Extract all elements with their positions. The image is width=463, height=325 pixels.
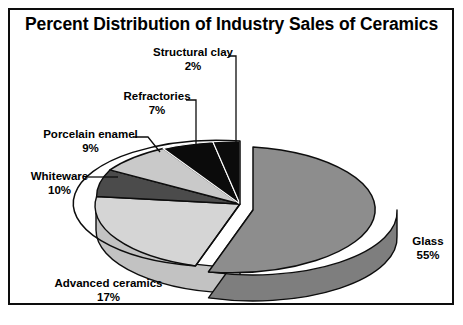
pie-label-porcelain-enamel-name: Porcelain enamel	[33, 128, 148, 142]
chart-figure: Percent Distribution of Industry Sales o…	[0, 0, 463, 325]
pie-label-porcelain-enamel-percent: 9%	[33, 142, 148, 156]
pie-label-glass-name: Glass	[404, 235, 452, 249]
pie-label-structural-clay-name: Structural clay	[141, 46, 245, 60]
pie-label-porcelain-enamel: Porcelain enamel 9%	[33, 128, 148, 155]
pie-label-glass-percent: 55%	[404, 249, 452, 263]
pie-label-glass: Glass 55%	[404, 235, 452, 262]
pie-label-whiteware-percent: 10%	[18, 184, 101, 198]
pie-label-advanced-ceramics: Advanced ceramics 17%	[44, 277, 173, 304]
pie-label-advanced-ceramics-name: Advanced ceramics	[44, 277, 173, 291]
pie-label-refractories-name: Refractories	[113, 90, 201, 104]
pie-label-refractories: Refractories 7%	[113, 90, 201, 117]
pie-label-structural-clay-percent: 2%	[141, 60, 245, 74]
pie-label-whiteware: Whiteware 10%	[18, 170, 101, 197]
pie-label-structural-clay: Structural clay 2%	[141, 46, 245, 73]
pie-label-advanced-ceramics-percent: 17%	[44, 291, 173, 305]
pie-label-refractories-percent: 7%	[113, 104, 201, 118]
pie-label-whiteware-name: Whiteware	[18, 170, 101, 184]
